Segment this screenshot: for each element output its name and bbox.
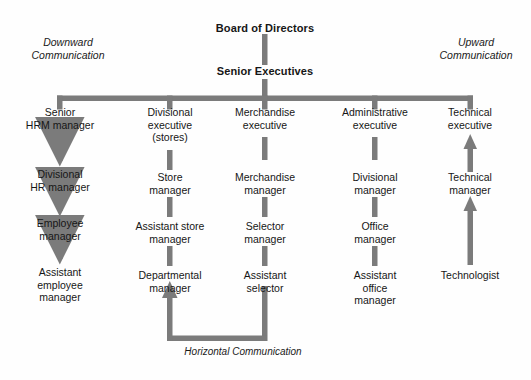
column-connectors-technical: [464, 134, 478, 265]
node-hrm-0: Senior HRM manager: [26, 106, 94, 131]
label-horizontal-communication: Horizontal Communication: [184, 346, 301, 357]
node-board-of-directors: Board of Directors: [216, 22, 314, 35]
column-connectors-merchandise: [262, 137, 268, 266]
column-connectors-administrative: [372, 137, 378, 266]
node-technical-1: Technical manager: [448, 171, 492, 196]
node-merchandise-0: Merchandise executive: [235, 106, 295, 131]
node-merchandise-2: Selector manager: [244, 220, 285, 245]
node-stores-3: Departmental manager: [138, 269, 201, 294]
arrow-up-head-technical-lower: [464, 196, 478, 211]
node-technical-2: Technologist: [441, 269, 499, 282]
arrow-up-head-technical-upper: [464, 134, 478, 149]
node-stores-2: Assistant store manager: [136, 220, 205, 245]
node-stores-0: Divisional executive (stores): [148, 106, 193, 144]
arrow-up-shaft-technical-upper: [468, 145, 474, 172]
node-merchandise-1: Merchandise manager: [235, 171, 295, 196]
node-hrm-1: Divisional HR manager: [30, 168, 90, 193]
node-stores-1: Store manager: [149, 171, 190, 196]
node-administrative-1: Divisional manager: [353, 171, 398, 196]
connector-board-to-senior: [262, 34, 268, 65]
column-connectors-stores: [167, 150, 173, 266]
org-chart-diagram: Board of Directors Senior Executives Dow…: [0, 0, 531, 380]
arrow-up-shaft-technical-lower: [468, 207, 474, 265]
label-upward-communication: Upward Communication: [440, 36, 513, 62]
node-administrative-2: Office manager: [354, 220, 395, 245]
label-downward-communication: Downward Communication: [32, 36, 105, 62]
node-administrative-3: Assistant office manager: [354, 269, 397, 307]
node-hrm-2: Employee manager: [37, 217, 84, 242]
node-merchandise-3: Assistant selector: [244, 269, 287, 294]
node-hrm-3: Assistant employee manager: [37, 266, 83, 304]
node-administrative-0: Administrative executive: [342, 106, 408, 131]
node-senior-executives: Senior Executives: [217, 65, 313, 78]
node-technical-0: Technical executive: [448, 106, 492, 131]
